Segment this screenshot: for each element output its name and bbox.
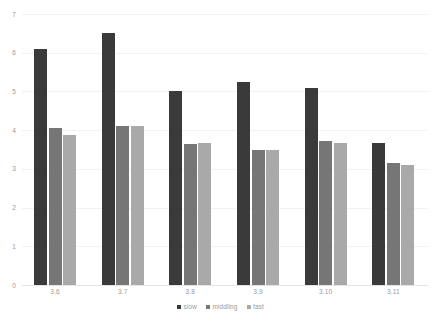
bar-slow-3.8[interactable]: [169, 91, 182, 285]
bar-middling-3.7[interactable]: [116, 126, 129, 285]
gridline-0: [22, 285, 428, 286]
y-axis: 01234567: [0, 0, 22, 323]
y-axis-tick-4: 4: [0, 127, 16, 134]
x-axis-tick-3.8: 3.8: [168, 288, 212, 296]
bar-fast-3.6[interactable]: [63, 135, 76, 285]
bar-middling-3.10[interactable]: [319, 141, 332, 285]
bar-group: [157, 14, 225, 285]
bar-group: [225, 14, 293, 285]
bar-group: [360, 14, 428, 285]
bar-fast-3.11[interactable]: [401, 165, 414, 285]
bar-slow-3.9[interactable]: [237, 82, 250, 285]
bar-fast-3.9[interactable]: [266, 150, 279, 285]
y-axis-tick-0: 0: [0, 282, 16, 289]
bar-slow-3.6[interactable]: [34, 49, 47, 285]
x-axis-tick-3.10: 3.10: [304, 288, 348, 296]
bar-slow-3.10[interactable]: [305, 88, 318, 285]
legend-label-fast: fast: [253, 303, 264, 310]
y-axis-tick-1: 1: [0, 243, 16, 250]
y-axis-tick-7: 7: [0, 11, 16, 18]
legend-item-fast[interactable]: fast: [247, 303, 264, 310]
legend-swatch-fast-icon: [247, 305, 251, 309]
y-axis-tick-3: 3: [0, 165, 16, 172]
bar-chart: 01234567 3.63.73.83.93.103.11 slowmiddli…: [0, 0, 441, 323]
bars-layer: [22, 14, 428, 285]
legend-label-slow: slow: [184, 303, 197, 310]
chart-legend: slowmiddlingfast: [0, 303, 441, 310]
x-axis-tick-3.11: 3.11: [371, 288, 415, 296]
bar-group: [22, 14, 90, 285]
bar-fast-3.8[interactable]: [198, 143, 211, 285]
legend-item-middling[interactable]: middling: [206, 303, 238, 310]
bar-group: [90, 14, 158, 285]
bar-fast-3.10[interactable]: [334, 143, 347, 285]
y-axis-tick-2: 2: [0, 204, 16, 211]
legend-swatch-middling-icon: [206, 305, 210, 309]
legend-item-slow[interactable]: slow: [177, 303, 197, 310]
bar-middling-3.6[interactable]: [49, 128, 62, 285]
y-axis-tick-5: 5: [0, 88, 16, 95]
y-axis-tick-6: 6: [0, 49, 16, 56]
bar-middling-3.8[interactable]: [184, 144, 197, 285]
bar-fast-3.7[interactable]: [131, 126, 144, 285]
x-axis-tick-3.7: 3.7: [101, 288, 145, 296]
bar-middling-3.11[interactable]: [387, 163, 400, 285]
x-axis: 3.63.73.83.93.103.11: [22, 288, 428, 300]
legend-swatch-slow-icon: [177, 305, 181, 309]
bar-slow-3.7[interactable]: [102, 33, 115, 285]
bar-middling-3.9[interactable]: [252, 150, 265, 286]
x-axis-tick-3.6: 3.6: [33, 288, 77, 296]
plot-area: [22, 14, 428, 285]
bar-group: [293, 14, 361, 285]
bar-slow-3.11[interactable]: [372, 143, 385, 285]
x-axis-tick-3.9: 3.9: [236, 288, 280, 296]
legend-label-middling: middling: [213, 303, 238, 310]
